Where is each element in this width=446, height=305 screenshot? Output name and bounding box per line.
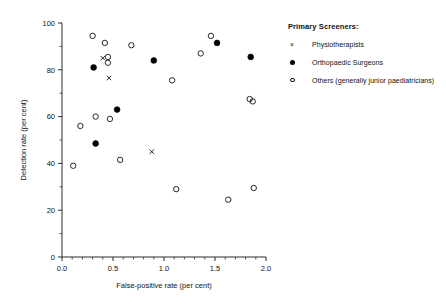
legend-item-label: Others (generally junior paediatricians) [312, 77, 434, 84]
x-tick-label: 1.5 [210, 264, 220, 273]
data-point [93, 114, 98, 119]
data-point [107, 116, 112, 121]
data-point [198, 51, 203, 56]
legend-item-orthopaedic-surgeons: Orthopaedic Surgeons [288, 57, 444, 67]
y-tick-label: 40 [47, 159, 55, 168]
legend-title: Primary Screeners: [288, 22, 444, 31]
data-point [226, 197, 231, 202]
data-point [105, 54, 110, 59]
x-axis-title: False-positive rate (per cent) [116, 281, 212, 290]
data-point [91, 65, 97, 71]
cross-marker-icon: × [288, 41, 312, 48]
scatter-plot-figure: 0204060801000.00.51.01.52.0False-positiv… [0, 0, 446, 305]
y-axis-title: Detection rate (per cent) [19, 99, 28, 180]
data-point [117, 157, 122, 162]
data-point [93, 141, 99, 147]
data-point [169, 78, 174, 83]
y-tick-label: 0 [51, 253, 55, 262]
x-tick-label: 1.0 [159, 264, 169, 273]
y-tick-label: 80 [47, 66, 55, 75]
x-tick-label: 0.0 [57, 264, 67, 273]
data-point [151, 58, 157, 64]
open-circle-marker-icon [288, 78, 312, 83]
y-tick-label: 20 [47, 206, 55, 215]
data-point [114, 107, 120, 113]
x-tick-label: 0.5 [108, 264, 118, 273]
series-3-markers [71, 33, 257, 202]
data-point [150, 150, 154, 154]
legend-item-physiotherapists: × Physiotherapists [288, 39, 444, 49]
series-2-markers [91, 40, 254, 146]
data-point [101, 56, 105, 60]
data-point [90, 33, 95, 38]
legend-item-others: Others (generally junior paediatricians) [288, 75, 444, 85]
data-point [129, 43, 134, 48]
data-point [107, 76, 111, 80]
data-point [71, 163, 76, 168]
data-point [214, 40, 220, 46]
legend-item-label: Physiotherapists [312, 41, 364, 48]
data-point [102, 40, 107, 45]
data-point [248, 54, 254, 60]
series-1-markers [101, 56, 154, 154]
legend-item-label: Orthopaedic Surgeons [312, 59, 383, 66]
data-point [208, 33, 213, 38]
data-point [105, 60, 110, 65]
data-point [174, 186, 179, 191]
data-point [251, 185, 256, 190]
y-tick-label: 100 [42, 19, 55, 28]
filled-circle-marker-icon [288, 60, 312, 65]
x-tick-label: 2.0 [261, 264, 271, 273]
legend: Primary Screeners: × Physiotherapists Or… [288, 22, 444, 93]
data-point [78, 123, 83, 128]
y-tick-label: 60 [47, 112, 55, 121]
